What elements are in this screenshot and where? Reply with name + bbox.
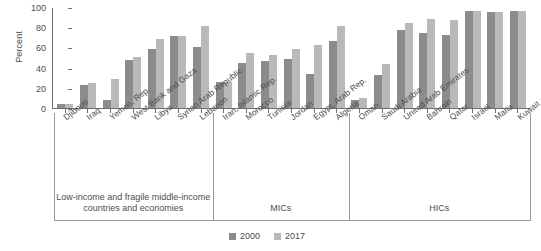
bar-group [303,8,326,108]
bar-2017 [382,64,390,108]
y-tick-label: 20 [20,84,46,93]
y-tick-label: 0 [20,105,46,114]
bar-group [461,8,484,108]
legend-item-2017[interactable]: 2017 [274,231,305,241]
bar-2000 [465,11,473,108]
bar-group [371,8,394,108]
group-separator-box: Low-income and fragile middle-income cou… [53,113,531,221]
group-name: MICs [213,203,349,214]
bar-2000 [510,11,518,108]
plot-area [52,8,530,109]
legend-label: 2017 [285,231,305,241]
y-tick-label: 40 [20,64,46,73]
bar-2000 [103,100,111,108]
bar-group [484,8,507,108]
bar-2000 [57,104,65,108]
bar-series-container [53,8,530,108]
bar-2000 [487,12,495,108]
bar-2017 [473,11,481,108]
y-tick-label: 60 [20,44,46,53]
bar-group [54,8,77,108]
bar-2017 [292,49,300,108]
bar-2017 [518,11,526,108]
legend-swatch-icon [229,233,236,240]
bar-2017 [314,45,322,108]
legend-label: 2000 [240,231,260,241]
group-name: Low-income and fragile middle-income cou… [54,192,213,214]
bar-group [99,8,122,108]
bar-2017 [450,20,458,108]
bar-group [280,8,303,108]
group-name: HICs [349,203,530,214]
legend-item-2000[interactable]: 2000 [229,231,260,241]
y-tick-label: 100 [20,4,46,13]
bar-2017 [495,12,503,108]
bar-2000 [170,36,178,108]
y-tick-label: 80 [20,24,46,33]
chart-legend: 20002017 [0,231,534,241]
bar-group [507,8,530,108]
bar-2017 [111,79,119,108]
legend-swatch-icon [274,233,281,240]
bar-group [77,8,100,108]
group-box-bottom-border [54,220,530,221]
group-box-right-border [530,113,531,221]
y-axis-ticks: 020406080100 [20,8,46,109]
